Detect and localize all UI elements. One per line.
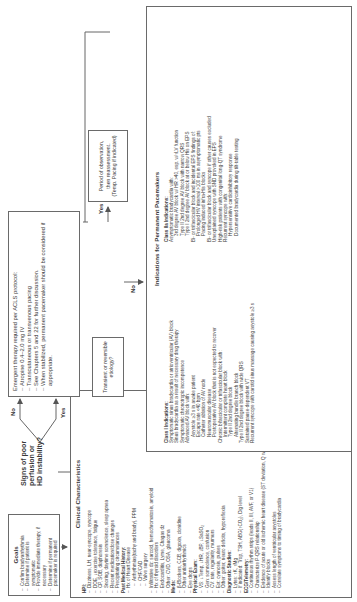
transient-no-label: No: [130, 285, 136, 293]
indications-title: Indications for Permanent Pacemakers: [153, 15, 161, 443]
decision-no-label: No: [10, 408, 16, 416]
goals-item: Determine if patient is symptomatic: [25, 519, 36, 591]
indications-box: Indications for Permanent Pacemakers Cla…: [146, 6, 352, 452]
decision-question: Signs of poor perfusion or HD instabilit…: [20, 426, 44, 486]
transient-etiology-box: Transient or reversible etiology?: [92, 337, 124, 397]
class2a-column: Class IIa Indications: Asymptomatic brad…: [164, 15, 256, 242]
decision-yes-label: Yes: [60, 408, 66, 418]
emergent-item: See Chapters 5 and 22 for further discus…: [33, 217, 40, 391]
hpi-item: Precipitating circumstances: [115, 395, 121, 593]
goals-item: Determine if permanent pacemaker is requ…: [48, 519, 59, 591]
flowchart-canvas: Goals Confirm bradyarrhythmia Determine …: [0, 0, 357, 602]
goals-item: Provide immediate therapy, if necessary: [36, 519, 47, 591]
observation-box: Period of observation, then reassessment…: [88, 130, 128, 202]
emergent-item: When stabilized, permanent pacemaker sho…: [40, 217, 54, 391]
class2a-subitem: Documented bradycardia during tilt-table…: [234, 15, 239, 242]
emergent-therapy-box: Emergent therapy required per ACLS proto…: [8, 211, 80, 397]
goals-title: Goals: [12, 519, 20, 591]
transient-yes-label: Yes: [98, 204, 104, 214]
goals-box: Goals Confirm bradyarrhythmia Determine …: [8, 514, 60, 596]
clinical-title: Clinical Characteristics: [74, 395, 82, 593]
class1-column: Class I Indications: Symptomatic sinus b…: [164, 254, 256, 443]
emergent-item: Atropine 0.4–2.0 mg IV: [19, 217, 26, 391]
emergent-lead: Emergent therapy required per ACLS proto…: [12, 217, 19, 391]
class1-item: Recurrent syncope with carotid sinus mas…: [250, 254, 255, 443]
transient-question: Transient or reversible etiology?: [102, 341, 115, 393]
emergent-item: Transcutaneous or transvenous pacing: [26, 217, 33, 391]
